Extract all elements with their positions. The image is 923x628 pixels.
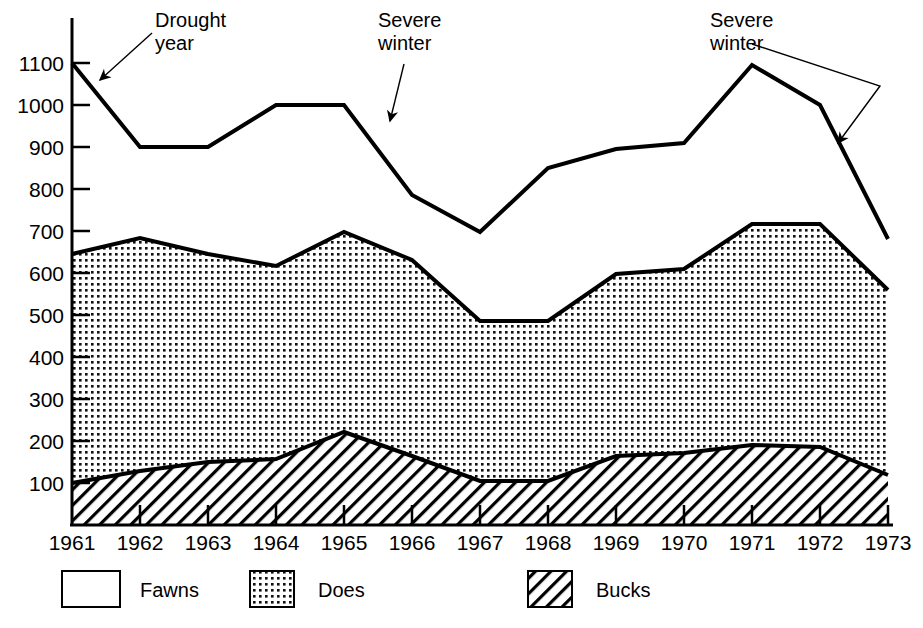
y-tick-label: 600: [29, 262, 64, 285]
y-tick-label: 300: [29, 388, 64, 411]
y-tick-label: 100: [29, 472, 64, 495]
y-tick-label: 700: [29, 220, 64, 243]
y-tick-label: 1100: [19, 52, 64, 75]
annotation-label-line1: Severe: [710, 9, 773, 31]
x-tick-label: 1973: [865, 531, 912, 554]
x-tick-label: 1965: [321, 531, 368, 554]
x-tick-label: 1962: [117, 531, 164, 554]
x-tick-label: 1971: [729, 531, 776, 554]
chart-container: 1100 1000 900 800 700 600 500 400 300 20…: [0, 0, 923, 628]
annotation-label-line2: winter: [377, 32, 432, 54]
x-tick-label: 1966: [389, 531, 436, 554]
y-tick-label: 500: [29, 304, 64, 327]
x-tick-label: 1963: [185, 531, 232, 554]
x-tick-label: 1969: [593, 531, 640, 554]
legend-swatch-does: [250, 571, 294, 607]
legend-label-fawns: Fawns: [140, 579, 199, 601]
y-tick-label: 800: [29, 178, 64, 201]
y-tick-label: 900: [29, 136, 64, 159]
legend-label-does: Does: [318, 579, 365, 601]
legend-label-bucks: Bucks: [596, 579, 650, 601]
y-tick-label: 200: [29, 430, 64, 453]
annotation-label-line2: year: [155, 32, 194, 54]
x-tick-label: 1961: [49, 531, 96, 554]
annotation-label-line1: Severe: [378, 9, 441, 31]
x-tick-label: 1964: [253, 531, 300, 554]
x-tick-label: 1967: [457, 531, 504, 554]
legend-swatch-bucks: [528, 571, 572, 607]
x-tick-label: 1968: [525, 531, 572, 554]
legend-swatch-fawns: [62, 571, 120, 607]
x-tick-label: 1970: [661, 531, 708, 554]
y-tick-label: 400: [29, 346, 64, 369]
x-tick-label: 1972: [797, 531, 844, 554]
annotation-label-line2: winter: [709, 32, 764, 54]
annotation-label-line1: Drought: [155, 9, 227, 31]
y-tick-label: 1000: [17, 94, 64, 117]
deer-population-stacked-area-chart: 1100 1000 900 800 700 600 500 400 300 20…: [0, 0, 923, 628]
